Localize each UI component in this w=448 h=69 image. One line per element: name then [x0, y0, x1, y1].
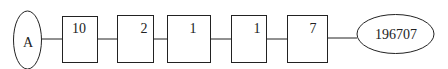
box-4: 1: [232, 16, 267, 63]
box-5-label: 7: [310, 21, 317, 36]
start-node-label: A: [23, 35, 34, 50]
end-node-label: 196707: [375, 27, 417, 42]
end-node: 196707: [357, 15, 434, 54]
chain-diagram: A 10 2 1 1 7 196707: [0, 0, 448, 69]
box-2-label: 2: [141, 21, 148, 36]
box-3-label: 1: [190, 21, 197, 36]
box-1: 10: [63, 17, 98, 63]
box-5: 7: [288, 16, 328, 63]
box-1-label: 10: [72, 21, 86, 36]
box-3: 1: [168, 16, 211, 63]
box-2: 2: [118, 16, 154, 63]
box-4-label: 1: [254, 21, 261, 36]
start-node: A: [14, 11, 42, 69]
